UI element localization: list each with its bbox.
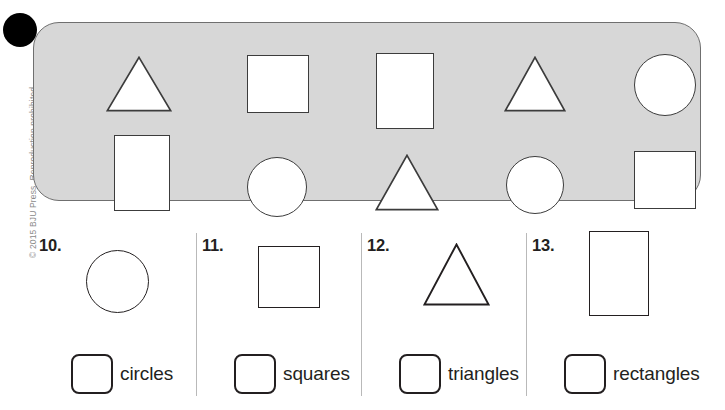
bank-shape-triangle-4 (504, 56, 566, 112)
bank-shape-triangle-8 (375, 154, 439, 211)
question-number: 11. (202, 236, 223, 255)
answer-row: squares (234, 354, 350, 394)
question-figure-circle (86, 250, 149, 313)
question-number: 12. (367, 236, 389, 255)
answer-box-circles[interactable] (71, 354, 113, 394)
answer-row: circles (71, 354, 173, 394)
bank-shape-circle-5 (634, 54, 696, 116)
question-figure-square (258, 246, 320, 308)
bank-shape-circle-9 (506, 156, 564, 214)
answer-row: rectangles (564, 354, 700, 394)
shape-bank-panel (33, 22, 701, 201)
question-item-13: 13.rectangles (526, 228, 725, 406)
bank-shape-circle-7 (247, 157, 307, 217)
question-item-10: 10.circles (33, 228, 196, 406)
question-divider (196, 233, 197, 396)
answer-label: squares (283, 363, 350, 385)
question-divider (526, 233, 527, 396)
answer-box-rectangles[interactable] (564, 354, 606, 394)
bank-shape-square-10 (634, 151, 696, 209)
question-item-11: 11.squares (196, 228, 361, 406)
answer-label: rectangles (613, 363, 700, 385)
bank-shape-rectangle-3 (376, 53, 434, 129)
answer-label: circles (120, 363, 173, 385)
page-corner-dot-marker (3, 13, 37, 47)
question-item-12: 12.triangles (361, 228, 526, 406)
question-figure-triangle (423, 243, 490, 306)
answer-label: triangles (448, 363, 519, 385)
question-divider (361, 233, 362, 396)
question-row: 10.circles11.squares12.triangles13.recta… (33, 228, 725, 406)
bank-shape-rectangle-6 (114, 135, 170, 211)
answer-row: triangles (399, 354, 519, 394)
answer-box-squares[interactable] (234, 354, 276, 394)
question-figure-rectangle (589, 231, 649, 316)
bank-shape-triangle-1 (106, 56, 172, 112)
question-number: 10. (39, 236, 61, 255)
question-number: 13. (532, 236, 554, 255)
bank-shape-square-2 (247, 55, 309, 113)
answer-box-triangles[interactable] (399, 354, 441, 394)
